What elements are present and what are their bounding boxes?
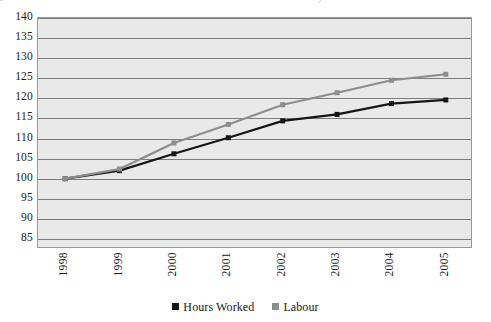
data-point <box>335 90 340 95</box>
gridline-125 <box>38 78 471 79</box>
gridline-105 <box>38 159 471 160</box>
x-tick-label-1998: 1998 <box>58 252 70 277</box>
cropped-caption-right: y <box>318 0 323 3</box>
gridline-85 <box>38 239 471 240</box>
y-tick-label-125: 125 <box>0 71 33 83</box>
legend-label: Labour <box>283 300 318 314</box>
data-point <box>171 151 176 156</box>
data-point <box>226 122 231 127</box>
data-point <box>389 101 394 106</box>
cropped-caption-sliver: F y <box>0 0 491 3</box>
gridline-100 <box>38 179 471 180</box>
gridline-90 <box>38 219 471 220</box>
data-point <box>335 112 340 117</box>
y-tick-label-105: 105 <box>0 152 33 164</box>
data-point <box>117 167 122 172</box>
legend-swatch-icon <box>172 303 179 310</box>
cropped-caption-left: F <box>0 0 5 3</box>
y-tick-label-120: 120 <box>0 91 33 103</box>
data-point <box>117 168 122 173</box>
plot-area <box>37 17 472 248</box>
x-tick-label-1999: 1999 <box>113 252 125 277</box>
chart-legend: Hours WorkedLabour <box>0 300 491 314</box>
series-labour <box>63 72 449 181</box>
data-point <box>280 102 285 107</box>
data-point <box>280 118 285 123</box>
x-tick-label-2003: 2003 <box>330 252 342 277</box>
data-point <box>443 72 448 77</box>
gridline-95 <box>38 199 471 200</box>
y-tick-label-95: 95 <box>0 192 33 204</box>
y-tick-label-140: 140 <box>0 11 33 23</box>
x-tick-label-2000: 2000 <box>167 252 179 277</box>
y-tick-label-85: 85 <box>0 232 33 244</box>
x-tick-label-2002: 2002 <box>276 252 288 277</box>
x-tick-label-2004: 2004 <box>384 252 396 277</box>
y-tick-label-135: 135 <box>0 31 33 43</box>
x-axis: 19981999200020012002200320042005 <box>37 252 472 296</box>
gridline-120 <box>38 98 471 99</box>
series-layer <box>38 18 472 248</box>
y-tick-label-130: 130 <box>0 51 33 63</box>
legend-entry-hours-worked: Hours Worked <box>172 300 254 314</box>
data-point <box>171 140 176 145</box>
gridline-140 <box>38 18 471 19</box>
line-chart-figure: F y 140135130125120115110105100959085 19… <box>0 0 491 322</box>
legend-swatch-icon <box>272 303 279 310</box>
y-tick-label-100: 100 <box>0 172 33 184</box>
x-tick-label-2001: 2001 <box>221 252 233 277</box>
legend-entry-labour: Labour <box>272 300 318 314</box>
y-tick-label-110: 110 <box>0 132 33 144</box>
series-line <box>65 74 446 178</box>
gridline-135 <box>38 38 471 39</box>
legend-label: Hours Worked <box>183 300 254 314</box>
x-tick-label-2005: 2005 <box>439 252 451 277</box>
gridline-130 <box>38 58 471 59</box>
gridline-115 <box>38 118 471 119</box>
gridline-110 <box>38 139 471 140</box>
y-tick-label-90: 90 <box>0 212 33 224</box>
y-axis: 140135130125120115110105100959085 <box>0 17 33 248</box>
y-tick-label-115: 115 <box>0 111 33 123</box>
